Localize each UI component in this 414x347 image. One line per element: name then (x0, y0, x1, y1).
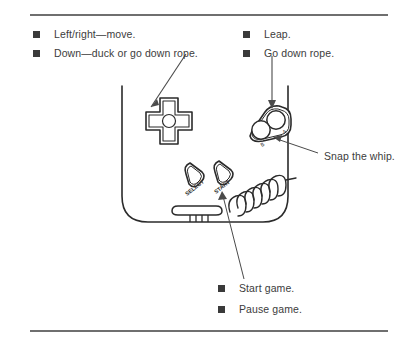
legend-item-label: Left/right—move. (54, 28, 136, 40)
callout-snap-the-whip: Snap the whip. (324, 150, 395, 162)
legend-item-label: Leap. (264, 28, 291, 40)
legend-item-start-game: Start game. (218, 282, 294, 294)
square-bullet-icon (218, 306, 225, 313)
square-bullet-icon (243, 31, 250, 38)
figure-page: A B SELECT START (0, 0, 414, 347)
b-button (252, 121, 270, 139)
square-bullet-icon (218, 285, 225, 292)
legend-item-label: Go down rope. (264, 47, 334, 59)
select-button[interactable]: SELECT (184, 163, 206, 197)
legend-item-label: Down—duck or go down rope. (54, 47, 198, 59)
speaker-grille (172, 206, 222, 222)
console-body-outline (122, 86, 288, 222)
arrow-to-action-buttons (268, 56, 276, 109)
leader-to-b-button (273, 135, 318, 153)
legend-item-left-move: Left/right—move. (33, 28, 136, 40)
square-bullet-icon (243, 50, 250, 57)
square-bullet-icon (33, 50, 40, 57)
dpad-center-pivot (163, 115, 176, 128)
legend-item-left-duck: Down—duck or go down rope. (33, 47, 198, 59)
square-bullet-icon (33, 31, 40, 38)
legend-item-right-rope: Go down rope. (243, 47, 334, 59)
start-button[interactable]: START (213, 161, 233, 195)
legend-item-pause-game: Pause game. (218, 303, 302, 315)
legend-item-right-leap: Leap. (243, 28, 291, 40)
legend-item-label: Start game. (239, 282, 294, 294)
legend-item-label: Pause game. (239, 303, 302, 315)
b-button-label: B (259, 141, 266, 148)
leader-to-start-button (218, 191, 244, 279)
